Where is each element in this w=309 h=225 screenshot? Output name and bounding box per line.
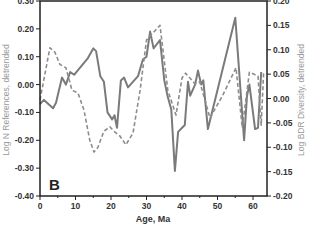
right-tick-label: 0.20 <box>273 0 290 6</box>
right-tick-label: 0.10 <box>273 45 290 55</box>
left-tick-label: -0.30 <box>15 163 35 173</box>
left-axis: 0.300.200.100.00-0.10-0.20-0.30-0.40 <box>15 0 40 201</box>
x-tick-label: 0 <box>38 201 43 211</box>
x-axis: 0102030405060 <box>38 196 258 211</box>
x-tick-label: 60 <box>248 201 258 211</box>
left-tick-label: 0.00 <box>17 80 34 90</box>
x-tick-label: 40 <box>177 201 187 211</box>
left-axis-title: Log N References, detrended <box>1 44 11 156</box>
left-tick-label: -0.40 <box>15 191 35 201</box>
right-tick-label: -0.20 <box>273 191 293 201</box>
right-tick-label: -0.15 <box>273 167 293 177</box>
left-tick-label: -0.20 <box>15 135 35 145</box>
right-axis-title: Log BDR Diversity, detrended <box>296 44 306 156</box>
left-tick-label: -0.10 <box>15 107 35 117</box>
left-tick-label: 0.20 <box>17 24 34 34</box>
series-layer <box>40 18 264 171</box>
right-tick-label: 0.00 <box>273 94 290 104</box>
right-tick-label: 0.15 <box>273 20 290 30</box>
dual-axis-line-chart: 0.300.200.100.00-0.10-0.20-0.30-0.40 0.2… <box>0 0 309 225</box>
x-tick-label: 50 <box>213 201 223 211</box>
right-tick-label: -0.05 <box>273 118 293 128</box>
left-tick-label: 0.10 <box>17 52 34 62</box>
right-tick-label: 0.05 <box>273 69 290 79</box>
right-axis: 0.200.150.100.050.00-0.05-0.10-0.15-0.20 <box>267 0 293 201</box>
x-tick-label: 30 <box>142 201 152 211</box>
panel-label: B <box>49 176 60 193</box>
x-tick-label: 20 <box>106 201 116 211</box>
left-tick-label: 0.30 <box>17 0 34 6</box>
right-tick-label: -0.10 <box>273 142 293 152</box>
x-tick-label: 10 <box>71 201 81 211</box>
x-axis-title: Age, Ma <box>136 214 172 224</box>
series-n-references-solid <box>40 18 261 171</box>
